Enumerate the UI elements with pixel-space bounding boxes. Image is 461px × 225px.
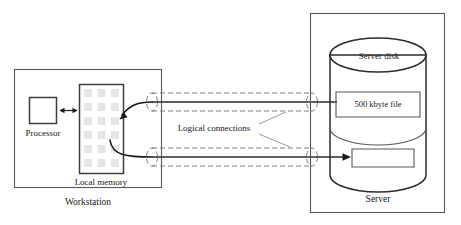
- workstation-label: Workstation: [65, 197, 111, 207]
- logical-connections-label: Logical connections: [178, 123, 251, 133]
- local-memory-label: Local memory: [75, 177, 128, 187]
- memory-inbound-curve: [122, 102, 152, 115]
- lower-data-flow-line: [110, 140, 351, 161]
- processor-box: [30, 98, 57, 124]
- disk-block-empty: [352, 149, 414, 167]
- disk-block-500kbyte-file-label: 500 kbyte file: [354, 99, 401, 109]
- diagram-canvas: Processor Local memory Workstation Logic…: [0, 0, 461, 225]
- processor-memory-arrow: [60, 108, 78, 113]
- processor-label: Processor: [26, 128, 61, 138]
- memory-cell-grid: [84, 89, 119, 167]
- local-memory-block: [80, 85, 124, 174]
- server-disk-label: Server disk: [359, 51, 400, 61]
- server-disk-cylinder: [330, 38, 426, 192]
- server-label: Server: [366, 194, 392, 204]
- disk-inbound-arrowhead: [343, 153, 352, 161]
- disk-platter-divider: [330, 128, 426, 145]
- logical-connections-leaders: [259, 112, 290, 147]
- diagram-root: Processor Local memory Workstation Logic…: [0, 0, 461, 225]
